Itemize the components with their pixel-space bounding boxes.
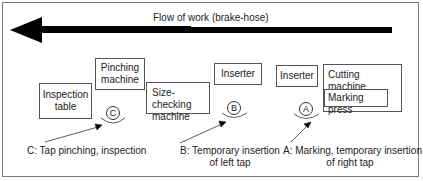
operator-a-circle: A (299, 102, 313, 116)
flow-label: Flow of work (brake-hose) (153, 12, 269, 23)
operator-b-circle: B (227, 101, 241, 115)
inserter-a-box: Inserter (276, 65, 318, 87)
marking-press-box: Marking press (324, 89, 388, 107)
caption-a-line2: of right tap (283, 157, 417, 169)
operator-c-circle: C (106, 106, 120, 120)
caption-b: B: Temporary insertion of left tap (174, 145, 286, 169)
caption-a-line1: A: Marking, temporary insertion (283, 145, 417, 157)
pinching-machine-box: Pinching machine (95, 58, 145, 90)
caption-c: C: Tap pinching, inspection (27, 145, 146, 157)
inserter-b-box: Inserter (214, 63, 262, 85)
pointer-arrows (45, 121, 311, 143)
size-checking-machine-box: Size-checking machine (146, 82, 210, 114)
caption-b-line1: B: Temporary insertion (174, 145, 286, 157)
inspection-table-box: Inspection table (39, 83, 92, 119)
caption-a: A: Marking, temporary insertion of right… (283, 145, 417, 169)
caption-b-line2: of left tap (174, 157, 286, 169)
